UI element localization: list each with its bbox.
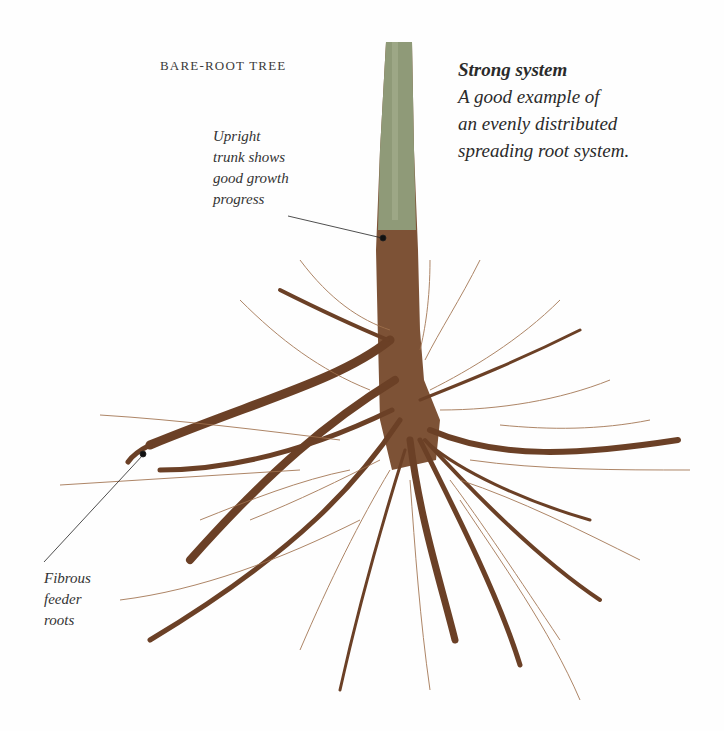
trunk-annotation: Upright trunk shows good growth progress <box>213 126 289 210</box>
annotation-line: roots <box>44 610 91 631</box>
fine-roots <box>60 260 690 700</box>
leader-lines <box>44 216 386 562</box>
annotation-line: trunk shows <box>213 147 289 168</box>
annotation-line: Fibrous <box>44 568 91 589</box>
bare-root-tree-figure: BARE-ROOT TREE Strong system A good exam… <box>0 0 724 731</box>
figure-heading: BARE-ROOT TREE <box>160 58 286 74</box>
figure-caption: Strong system A good example of an evenl… <box>458 56 718 164</box>
annotation-line: progress <box>213 189 289 210</box>
caption-line: A good example of <box>458 83 718 110</box>
trunk <box>376 42 440 470</box>
caption-line: an evenly distributed <box>458 110 718 137</box>
annotation-line: good growth <box>213 168 289 189</box>
annotation-line: feeder <box>44 589 91 610</box>
feeder-roots-annotation: Fibrous feeder roots <box>44 568 91 631</box>
caption-line: spreading root system. <box>458 137 718 164</box>
annotation-line: Upright <box>213 126 289 147</box>
caption-title: Strong system <box>458 56 718 83</box>
